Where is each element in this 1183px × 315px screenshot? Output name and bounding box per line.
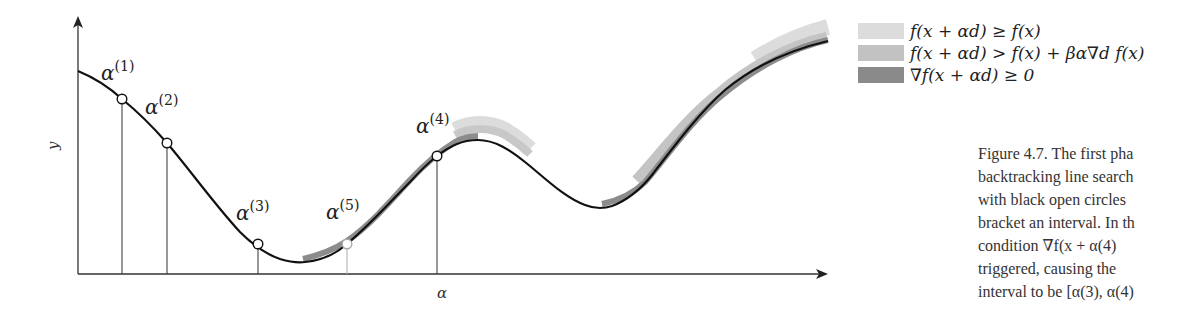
label-alpha-5: α(5) bbox=[326, 197, 359, 224]
band-f-geq-f0 bbox=[455, 27, 828, 149]
label-alpha-2: α(2) bbox=[145, 92, 178, 119]
marker-alpha-4 bbox=[432, 151, 442, 161]
marker-alpha-5 bbox=[342, 239, 352, 249]
figure-caption: Figure 4.7. The first pha backtracking l… bbox=[978, 142, 1183, 303]
markers bbox=[117, 94, 442, 249]
marker-stems bbox=[122, 103, 437, 274]
line-search-plot: α(1) α(2) α(3) α(4) α(5) α y bbox=[0, 0, 860, 315]
label-alpha-1: α(1) bbox=[101, 58, 134, 85]
marker-alpha-1 bbox=[117, 94, 127, 104]
label-alpha-3: α(3) bbox=[236, 198, 269, 225]
legend-swatch-light bbox=[858, 23, 904, 39]
legend-item-gradient: ∇f(x + αd) ≥ 0 bbox=[858, 64, 1144, 86]
legend-swatch-dark bbox=[858, 67, 904, 83]
legend: f(x + αd) ≥ f(x) f(x + αd) > f(x) + βα∇d… bbox=[858, 20, 1144, 86]
marker-alpha-3 bbox=[253, 239, 263, 249]
legend-item-f-geq: f(x + αd) ≥ f(x) bbox=[858, 20, 1144, 42]
legend-swatch-medium bbox=[858, 45, 904, 61]
y-axis-label: y bbox=[44, 141, 62, 151]
legend-item-armijo: f(x + αd) > f(x) + βα∇d f(x) bbox=[858, 42, 1144, 64]
marker-alpha-2 bbox=[162, 138, 172, 148]
x-axis-label: α bbox=[437, 284, 447, 302]
label-alpha-4: α(4) bbox=[416, 111, 449, 138]
function-curve bbox=[78, 41, 828, 262]
marker-labels: α(1) α(2) α(3) α(4) α(5) bbox=[101, 58, 449, 225]
